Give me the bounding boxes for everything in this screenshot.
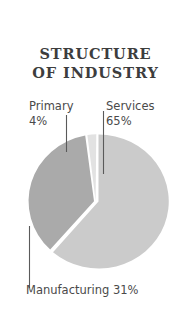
slice-label-manufacturing: Manufacturing 31% xyxy=(26,283,139,298)
slice-label-services: Services 65% xyxy=(106,99,155,128)
slice-label-services-value: 65% xyxy=(106,114,155,129)
slice-label-services-name: Services xyxy=(106,99,155,114)
pie-chart-figure: STRUCTURE OF INDUSTRY Primary 4% Service… xyxy=(0,0,191,312)
slice-label-primary-name: Primary xyxy=(29,99,73,114)
pie-graphic xyxy=(0,0,191,312)
slice-label-primary: Primary 4% xyxy=(29,99,73,128)
slice-label-primary-value: 4% xyxy=(29,114,73,129)
slice-label-manufacturing-text: Manufacturing 31% xyxy=(26,283,139,298)
